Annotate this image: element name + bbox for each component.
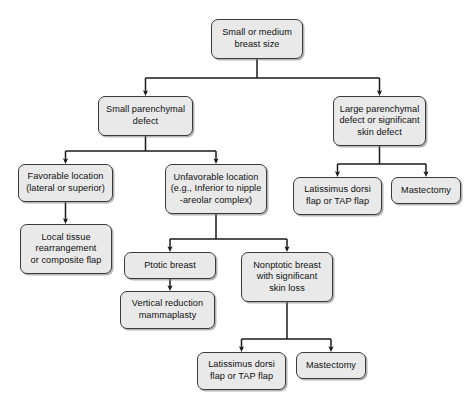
node-vertical-reduction-mammaplasty[interactable]: Vertical reduction mammaplasty [120,291,215,329]
node-unfavorable-location[interactable]: Unfavorable location (e.g., Inferior to … [165,164,267,214]
node-nonptotic-breast[interactable]: Nonptotic breast with significant skin l… [241,252,333,302]
node-local-tissue-rearrangement[interactable]: Local tissue rearrangement or composite … [20,224,112,274]
node-small-parenchymal-defect[interactable]: Small parenchymal defect [98,96,193,136]
node-latissimus-dorsi-flap-bottom[interactable]: Latissimus dorsi flap or TAP flap [197,352,286,390]
flowchart-canvas: Small or medium breast size Small parenc… [0,0,476,406]
node-favorable-location[interactable]: Favorable location (lateral or superior) [18,164,113,202]
node-latissimus-dorsi-flap-right[interactable]: Latissimus dorsi flap or TAP flap [293,177,382,215]
edge-root-split [146,59,380,93]
node-mastectomy-right[interactable]: Mastectomy [391,177,461,204]
edge-large-defect-split [338,146,427,174]
node-large-parenchymal-defect[interactable]: Large parenchymal defect or significant … [333,96,426,146]
edge-small-defect-split [66,136,217,161]
node-ptotic-breast[interactable]: Ptotic breast [124,252,216,279]
edge-nonptotic-split [242,302,332,349]
node-small-or-medium-breast-size[interactable]: Small or medium breast size [211,19,303,59]
edge-unfavorable-split [170,214,287,249]
node-mastectomy-bottom[interactable]: Mastectomy [296,352,366,379]
